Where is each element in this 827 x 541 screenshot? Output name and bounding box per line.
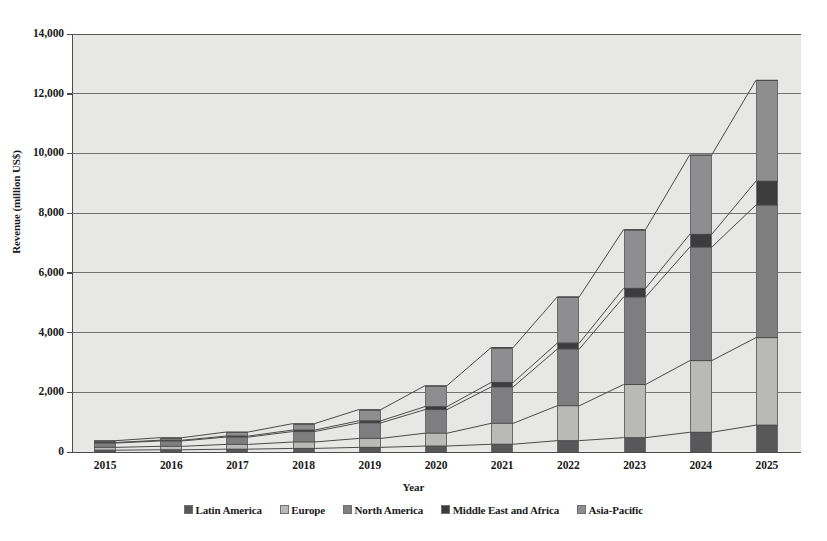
bar-segment[interactable] [94, 442, 116, 443]
bar-stack-2015[interactable] [94, 441, 116, 452]
bar-stack-2020[interactable] [425, 386, 447, 452]
bar-segment[interactable] [491, 387, 513, 423]
y-tick-mark [67, 332, 72, 333]
legend-swatch-icon [343, 505, 352, 514]
bar-segment[interactable] [226, 432, 248, 436]
bar-stack-2024[interactable] [690, 155, 712, 452]
bar-segment[interactable] [226, 437, 248, 444]
bar-segment[interactable] [293, 442, 315, 448]
bar-segment[interactable] [293, 430, 315, 431]
x-tick-label-2021: 2021 [469, 459, 535, 471]
bar-segment[interactable] [690, 155, 712, 234]
bar-stack-2022[interactable] [557, 297, 579, 452]
bar-stack-2016[interactable] [160, 438, 182, 452]
bar-segment[interactable] [226, 449, 248, 452]
y-tick-label: 0 [2, 446, 64, 458]
bar-segment[interactable] [756, 425, 778, 452]
legend-item[interactable]: Europe [280, 503, 325, 516]
bar-segment[interactable] [425, 386, 447, 407]
legend-swatch-icon [577, 505, 586, 514]
bar-stack-2023[interactable] [624, 230, 646, 452]
bar-segment[interactable] [94, 441, 116, 443]
revenue-stacked-bar-chart: 02,0004,0006,0008,00010,00012,00014,000 … [0, 0, 827, 541]
gridline [72, 34, 801, 35]
legend-item[interactable]: Asia-Pacific [577, 503, 643, 516]
bar-segment[interactable] [624, 438, 646, 452]
x-axis-line [72, 452, 801, 453]
bar-segment[interactable] [359, 438, 381, 447]
bar-segment[interactable] [359, 423, 381, 439]
bar-segment[interactable] [160, 438, 182, 441]
bar-segment[interactable] [293, 432, 315, 442]
bar-segment[interactable] [624, 230, 646, 289]
legend-label: Latin America [196, 504, 262, 516]
chart-legend: Latin AmericaEuropeNorth AmericaMiddle E… [0, 502, 827, 516]
bar-segment[interactable] [359, 421, 381, 423]
bar-segment[interactable] [491, 444, 513, 452]
bar-segment[interactable] [359, 447, 381, 452]
bar-segment[interactable] [557, 343, 579, 349]
bar-segment[interactable] [491, 382, 513, 386]
y-tick-label: 4,000 [2, 327, 64, 339]
bar-segment[interactable] [160, 446, 182, 449]
bar-segment[interactable] [557, 297, 579, 343]
y-tick-label: 12,000 [2, 88, 64, 100]
y-tick-mark [67, 34, 72, 35]
bar-segment[interactable] [624, 297, 646, 384]
x-tick-label-2019: 2019 [337, 459, 403, 471]
bar-segment[interactable] [94, 447, 116, 450]
legend-item[interactable]: Latin America [184, 503, 262, 516]
legend-item[interactable]: North America [343, 503, 423, 516]
x-tick-label-2015: 2015 [72, 459, 138, 471]
bar-segment[interactable] [690, 247, 712, 360]
bar-segment[interactable] [624, 385, 646, 438]
bar-segment[interactable] [293, 448, 315, 452]
x-tick-label-2024: 2024 [668, 459, 734, 471]
y-tick-mark [67, 93, 72, 94]
bar-segment[interactable] [94, 450, 116, 452]
bar-segment[interactable] [226, 436, 248, 437]
legend-item[interactable]: Middle East and Africa [441, 503, 559, 516]
bar-segment[interactable] [425, 407, 447, 410]
bar-segment[interactable] [491, 348, 513, 383]
legend-swatch-icon [441, 505, 450, 514]
y-tick-label: 14,000 [2, 28, 64, 40]
bar-segment[interactable] [425, 433, 447, 446]
bar-segment[interactable] [94, 443, 116, 447]
bar-segment[interactable] [557, 441, 579, 452]
bar-segment[interactable] [359, 410, 381, 421]
bar-segment[interactable] [756, 205, 778, 338]
bar-segment[interactable] [557, 349, 579, 406]
x-tick-label-2016: 2016 [138, 459, 204, 471]
bar-segment[interactable] [425, 446, 447, 452]
bar-segment[interactable] [425, 410, 447, 434]
bar-segment[interactable] [557, 406, 579, 441]
bar-segment[interactable] [756, 80, 778, 181]
x-tick-label-2025: 2025 [734, 459, 800, 471]
y-tick-label: 2,000 [2, 386, 64, 398]
y-tick-mark [67, 392, 72, 393]
bar-segment[interactable] [690, 432, 712, 452]
bar-stack-2019[interactable] [359, 410, 381, 452]
y-tick-mark [67, 272, 72, 273]
bar-stack-2018[interactable] [293, 424, 315, 452]
bar-segment[interactable] [624, 288, 646, 297]
y-axis-title: Revenue (million US$) [10, 102, 22, 302]
bar-stack-2025[interactable] [756, 80, 778, 452]
bar-segment[interactable] [160, 441, 182, 446]
legend-label: Middle East and Africa [453, 504, 559, 516]
x-tick-label-2017: 2017 [204, 459, 270, 471]
gridline [72, 93, 801, 94]
bar-segment[interactable] [756, 181, 778, 205]
bar-segment[interactable] [690, 361, 712, 433]
bar-segment[interactable] [491, 423, 513, 444]
bar-segment[interactable] [160, 440, 182, 441]
bar-stack-2021[interactable] [491, 348, 513, 453]
bar-segment[interactable] [690, 234, 712, 247]
legend-label: Europe [291, 504, 325, 516]
bar-stack-2017[interactable] [226, 432, 248, 452]
bar-segment[interactable] [756, 338, 778, 425]
bar-segment[interactable] [160, 450, 182, 452]
bar-segment[interactable] [226, 444, 248, 449]
bar-segment[interactable] [293, 424, 315, 430]
